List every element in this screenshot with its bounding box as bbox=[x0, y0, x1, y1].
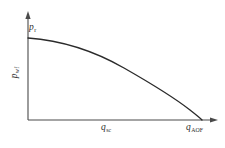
y-axis-label-subscript: wf bbox=[14, 67, 20, 73]
absolute-open-flow-subscript: AOF bbox=[191, 127, 203, 133]
y-axis-arrowhead bbox=[25, 11, 30, 19]
ipr-curve-path bbox=[28, 38, 202, 120]
y-axis-label-symbol: p bbox=[9, 74, 19, 79]
ipr-curve-figure: pr pwf qsc qAOF bbox=[0, 0, 225, 148]
x-axis-arrowhead bbox=[210, 117, 218, 122]
flow-rate-label: qsc bbox=[101, 123, 111, 133]
absolute-open-flow-label: qAOF bbox=[186, 123, 203, 133]
flow-rate-subscript: sc bbox=[106, 127, 111, 133]
reservoir-pressure-subscript: r bbox=[34, 27, 36, 33]
reservoir-pressure-label: pr bbox=[29, 23, 36, 33]
y-axis-label: pwf bbox=[10, 53, 20, 93]
